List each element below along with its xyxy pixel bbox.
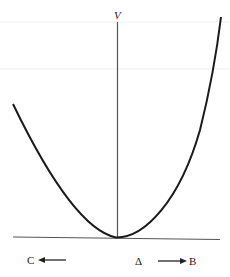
y-axis-label: V	[114, 10, 121, 21]
arrow-left-icon	[38, 257, 45, 263]
label-c: C	[27, 255, 34, 266]
label-b: B	[189, 256, 196, 267]
label-delta: Δ	[135, 256, 142, 267]
diagram-canvas	[0, 0, 230, 277]
arrow-right-icon	[180, 258, 187, 264]
